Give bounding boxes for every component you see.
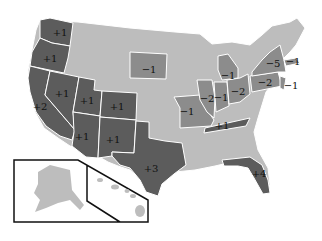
label-or: +1 (43, 53, 58, 64)
label-in: −1 (214, 92, 229, 103)
label-nv: +1 (55, 88, 70, 99)
label-tx: +3 (144, 163, 159, 174)
label-ma: −1 (286, 56, 301, 67)
label-tn: +1 (215, 120, 230, 131)
label-ut: +1 (80, 95, 95, 106)
label-fl: +4 (252, 168, 267, 179)
label-nj: −1 (284, 80, 299, 91)
label-wa: +1 (53, 27, 68, 38)
label-sd: −1 (142, 64, 157, 75)
label-pa: −2 (258, 77, 273, 88)
label-il: −2 (200, 93, 215, 104)
label-mi: −1 (221, 70, 236, 81)
label-co: +1 (110, 101, 125, 112)
alaska (34, 165, 84, 212)
us-map: +1 +1 +2 +1 +1 +1 +1 +1 +3 −1 −1 −2 −1 −… (0, 0, 322, 241)
label-nm: +1 (106, 134, 121, 145)
label-ca: +2 (33, 101, 48, 112)
label-az: +1 (75, 131, 90, 142)
label-ny: −5 (266, 58, 281, 69)
label-mo: −1 (180, 106, 195, 117)
label-oh: −2 (231, 86, 246, 97)
